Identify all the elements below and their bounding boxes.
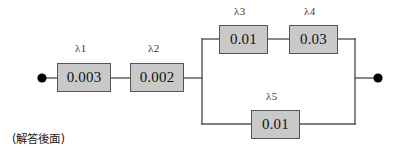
figure-caption: (解答後面)	[12, 130, 65, 146]
output-terminal-dot	[373, 73, 382, 82]
lambda4-label: λ4	[304, 5, 316, 17]
diagram-canvas: λ1 λ2 λ3 λ4 λ5 0.003 0.002 0.01 0.03 0.0…	[0, 0, 397, 159]
lambda5-label: λ5	[266, 90, 278, 102]
lambda3-label: λ3	[234, 5, 246, 17]
block-lambda4: 0.03	[289, 25, 338, 54]
block-lambda5: 0.01	[251, 110, 300, 139]
lambda2-label: λ2	[148, 42, 160, 54]
input-terminal-dot	[37, 73, 46, 82]
block-lambda1: 0.003	[57, 63, 111, 92]
block-lambda2: 0.002	[130, 63, 184, 92]
lambda1-label: λ1	[75, 42, 87, 54]
block-lambda3: 0.01	[219, 25, 268, 54]
